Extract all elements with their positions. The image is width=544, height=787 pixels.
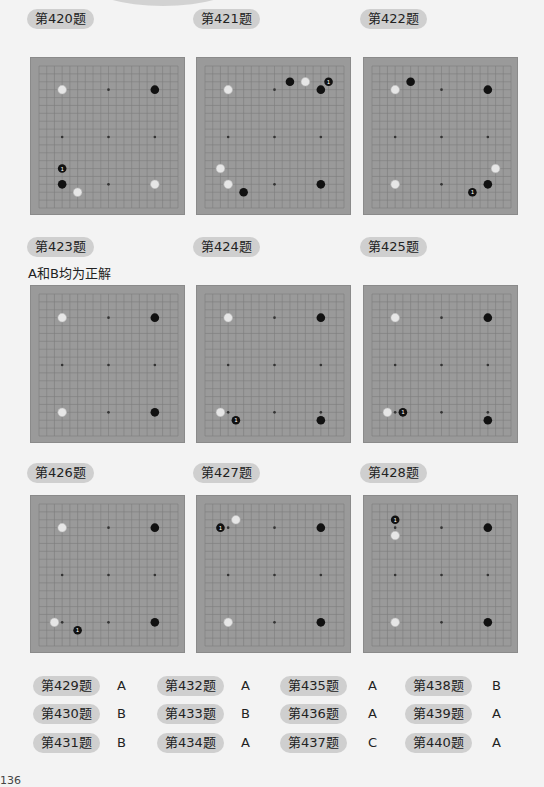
go-board: 1 (196, 57, 351, 215)
answer-label: 第430题 (33, 704, 100, 724)
go-board: 1 (363, 57, 518, 215)
answer-value: A (368, 676, 377, 696)
svg-text:1: 1 (393, 517, 397, 523)
go-board: 1 (30, 495, 185, 653)
answer-value: B (492, 676, 501, 696)
problem-label: 第420题 (27, 9, 94, 29)
problem-label: 第422题 (360, 9, 427, 29)
go-board: 1 (363, 285, 518, 443)
answer-label: 第433题 (157, 704, 224, 724)
problem-note: A和B均为正解 (28, 263, 111, 282)
problem-label: 第424题 (193, 237, 260, 257)
page-number: 136 (0, 774, 21, 787)
answer-value: B (241, 704, 250, 724)
answer-label: 第438题 (405, 676, 472, 696)
answer-label: 第435题 (280, 676, 347, 696)
svg-text:1: 1 (60, 166, 64, 172)
problem-label: 第427题 (193, 463, 260, 483)
svg-text:1: 1 (76, 627, 80, 633)
answer-value: C (368, 733, 377, 753)
answer-value: B (117, 733, 126, 753)
svg-text:1: 1 (401, 409, 405, 415)
go-board (30, 285, 185, 443)
answer-value: A (492, 704, 501, 724)
problem-label: 第421题 (193, 9, 260, 29)
answer-value: A (241, 676, 250, 696)
go-board: 1 (363, 495, 518, 653)
problem-label: 第423题 (27, 237, 94, 257)
svg-text:1: 1 (219, 525, 223, 531)
answer-value: A (492, 733, 501, 753)
svg-text:1: 1 (234, 417, 238, 423)
problem-label: 第428题 (360, 463, 427, 483)
answer-label: 第436题 (280, 704, 347, 724)
go-board: 1 (196, 285, 351, 443)
answer-label: 第440题 (405, 733, 472, 753)
answer-label: 第434题 (157, 733, 224, 753)
answer-label: 第429题 (33, 676, 100, 696)
problem-label: 第425题 (360, 237, 427, 257)
decorative-header-ellipse (88, 0, 238, 6)
go-board: 1 (30, 57, 185, 215)
answer-label: 第439题 (405, 704, 472, 724)
problem-label: 第426题 (27, 463, 94, 483)
svg-text:1: 1 (471, 189, 475, 195)
answer-label: 第432题 (157, 676, 224, 696)
answer-value: A (117, 676, 126, 696)
answer-value: A (241, 733, 250, 753)
answer-label: 第437题 (280, 733, 347, 753)
answer-label: 第431题 (33, 733, 100, 753)
go-board: 1 (196, 495, 351, 653)
svg-text:1: 1 (327, 79, 331, 85)
answer-value: B (117, 704, 126, 724)
answer-value: A (368, 704, 377, 724)
